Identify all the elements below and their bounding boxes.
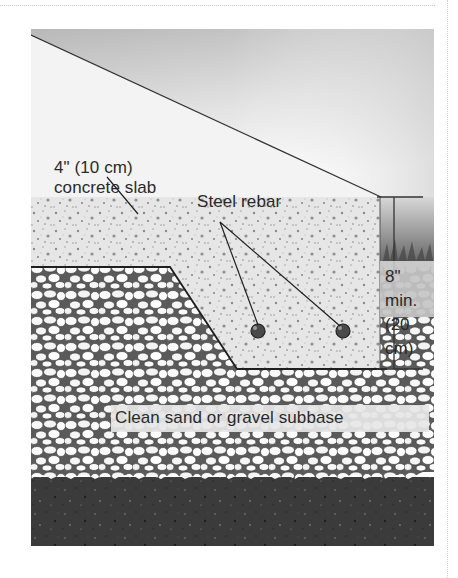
rebar-right bbox=[336, 324, 350, 338]
edge-depth-label: 8" min. (20 cm) bbox=[385, 265, 434, 361]
rebar-label: Steel rebar bbox=[197, 192, 281, 212]
rebar-left bbox=[251, 324, 265, 338]
frame-top-rule bbox=[0, 5, 435, 6]
slab-cross-section-illustration: 4" (10 cm) concrete slab Steel rebar 8" … bbox=[31, 29, 434, 546]
slab-label-line2: concrete slab bbox=[54, 178, 156, 198]
subbase-label: Clean sand or gravel subbase bbox=[115, 407, 344, 429]
frame-right-rule bbox=[447, 0, 448, 578]
native-soil bbox=[31, 477, 434, 546]
slab-label-line1: 4" (10 cm) bbox=[54, 158, 156, 178]
edge-depth-line2: (20 cm) bbox=[385, 313, 434, 361]
edge-depth-line1: 8" min. bbox=[385, 265, 434, 313]
slab-thickness-label: 4" (10 cm) concrete slab bbox=[54, 158, 156, 198]
